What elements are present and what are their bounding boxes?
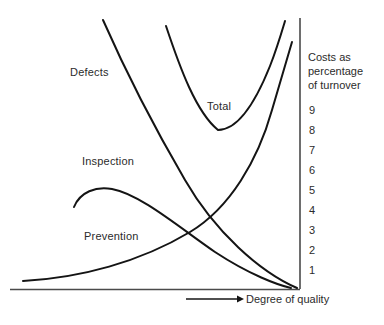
curve-label-prevention: Prevention	[84, 230, 139, 244]
y-axis-caption: Costs as percentage of turnover	[308, 50, 363, 92]
y-tick-label-8: 8	[309, 125, 315, 136]
curve-label-total: Total	[207, 100, 231, 114]
curve-prevention	[23, 42, 292, 281]
y-tick-label-3: 3	[309, 225, 315, 236]
y-tick-label-2: 2	[309, 245, 315, 256]
y-tick-label-4: 4	[309, 205, 315, 216]
curve-total	[166, 21, 285, 130]
curve-label-defects: Defects	[70, 66, 109, 80]
y-tick-label-5: 5	[309, 185, 315, 196]
y-tick-label-7: 7	[309, 145, 315, 156]
curve-defects	[103, 20, 297, 288]
quality-cost-chart: Defects Inspection Prevention Total Cost…	[0, 0, 384, 325]
x-axis-arrow-head	[237, 296, 244, 303]
x-axis-label: Degree of quality	[246, 293, 329, 305]
y-tick-label-9: 9	[309, 105, 315, 116]
curve-label-inspection: Inspection	[82, 155, 134, 169]
chart-canvas	[0, 0, 384, 325]
y-tick-label-6: 6	[309, 165, 315, 176]
y-tick-label-1: 1	[309, 265, 315, 276]
